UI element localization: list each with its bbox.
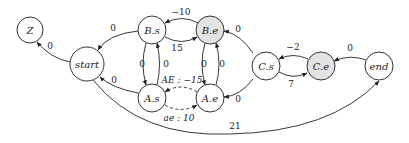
edge-label-ae-be: 0: [219, 59, 225, 69]
edge-as-to-bs: [157, 43, 160, 85]
edge-label-as-bs: 0: [163, 59, 169, 69]
edge-label-cs-ae: 0: [235, 94, 241, 104]
state-graph-diagram: 0 0 0 −10 15 0 0 0 0 AE : −15 ae : 10: [0, 0, 409, 143]
edge-cs-to-ce: [279, 72, 307, 76]
edge-label-be-bs: −10: [172, 7, 191, 17]
edge-label-as-ae: ae : 10: [164, 113, 195, 123]
edge-label-ce-cs: −2: [286, 42, 299, 52]
node-c-e: C.e: [307, 52, 335, 80]
edge-label-bs-start: 0: [110, 23, 116, 33]
edge-label-start-end: 21: [229, 121, 240, 131]
edge-bs-to-be: [165, 37, 197, 42]
edge-ce-to-cs: [279, 56, 308, 60]
edge-cs-to-be: [224, 31, 253, 53]
svg-text:B.e: B.e: [201, 25, 219, 36]
edge-as-to-start: [100, 77, 138, 93]
edge-label-cs-ce: 7: [288, 79, 294, 89]
edge-bs-to-start: [98, 31, 138, 50]
edge-label-start-z: 0: [47, 41, 53, 51]
svg-text:C.s: C.s: [258, 61, 274, 72]
node-start: start: [70, 47, 104, 81]
edge-be-to-bs: [165, 19, 198, 24]
node-z: Z: [17, 17, 43, 43]
edge-label-be-ae: 0: [201, 59, 207, 69]
edge-label-as-start: 0: [111, 75, 117, 85]
svg-text:Z: Z: [26, 25, 35, 36]
svg-text:start: start: [75, 59, 100, 70]
edge-end-to-ce: [334, 57, 366, 61]
node-c-s: C.s: [252, 52, 280, 80]
node-b-e: B.e: [196, 16, 224, 44]
svg-text:A.s: A.s: [143, 93, 160, 104]
edge-label-bs-be: 15: [171, 43, 183, 53]
node-end: end: [365, 52, 393, 80]
svg-text:C.e: C.e: [313, 61, 329, 72]
edge-start-to-z: [37, 42, 70, 62]
edge-as-to-ae: [165, 105, 197, 110]
edge-label-end-ce: 0: [347, 43, 353, 53]
edge-label-ae-as: AE : −15: [161, 75, 203, 85]
svg-text:B.s: B.s: [143, 25, 160, 36]
svg-text:A.e: A.e: [201, 93, 218, 104]
edge-ae-to-as: [165, 87, 197, 92]
edge-label-cs-be: 0: [235, 24, 241, 34]
node-a-e: A.e: [196, 84, 224, 112]
node-a-s: A.s: [138, 84, 166, 112]
svg-text:end: end: [370, 61, 389, 72]
node-b-s: B.s: [138, 16, 166, 44]
edge-label-bs-as: 0: [139, 59, 145, 69]
